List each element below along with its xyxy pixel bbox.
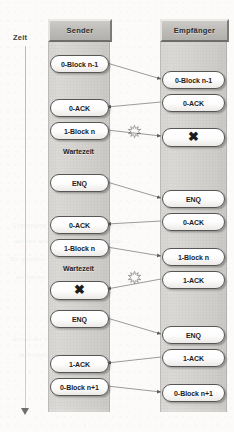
transfer-arrow — [107, 247, 161, 256]
empfaenger-message-pill[interactable]: 1-Block n — [162, 248, 225, 266]
empfaenger-message-pill[interactable]: ENQ — [162, 190, 225, 208]
sender-message-pill[interactable]: 1-Block n — [50, 122, 109, 140]
corrupted-frame-icon[interactable]: ✖ — [50, 281, 109, 300]
wait-time-label: Wartezeit — [50, 148, 107, 155]
transfer-arrow — [107, 221, 161, 224]
transfer-arrow — [107, 182, 161, 198]
empfaenger-message-pill[interactable]: 0-Block n-1 — [162, 71, 225, 89]
sender-message-pill[interactable]: ENQ — [50, 310, 109, 328]
transfer-arrow — [107, 318, 161, 334]
protocol-diagram-canvas: Übertragung wird nach Ablauf der Warteze… — [0, 0, 234, 432]
transfer-arrow — [107, 357, 161, 363]
transfer-arrow — [107, 102, 161, 107]
sender-message-pill[interactable]: 0-Block n-1 — [50, 55, 109, 73]
sender-message-pill[interactable]: 0-ACK — [50, 99, 109, 117]
corrupted-frame-icon[interactable]: ✖ — [162, 128, 225, 147]
wait-time-label: Wartezeit — [50, 265, 107, 272]
sender-message-pill[interactable]: 1-Block n — [50, 239, 109, 257]
empfaenger-message-pill[interactable]: 0-ACK — [162, 213, 225, 231]
sender-message-pill[interactable]: 0-Block n+1 — [50, 378, 109, 396]
empfaenger-message-pill[interactable]: 1-ACK — [162, 271, 225, 289]
empfaenger-message-pill[interactable]: 1-ACK — [162, 349, 225, 367]
error-burst-icon — [128, 124, 141, 137]
empfaenger-message-pill[interactable]: 0-Block n+1 — [162, 384, 225, 402]
transfer-arrow — [107, 63, 161, 79]
sender-message-pill[interactable]: ENQ — [50, 174, 109, 192]
transfer-arrow — [107, 386, 161, 392]
sender-message-pill[interactable]: 1-ACK — [50, 355, 109, 373]
empfaenger-message-pill[interactable]: ENQ — [162, 326, 225, 344]
error-burst-icon — [128, 270, 141, 283]
empfaenger-message-pill[interactable]: 0-ACK — [162, 94, 225, 112]
sender-message-pill[interactable]: 0-ACK — [50, 216, 109, 234]
